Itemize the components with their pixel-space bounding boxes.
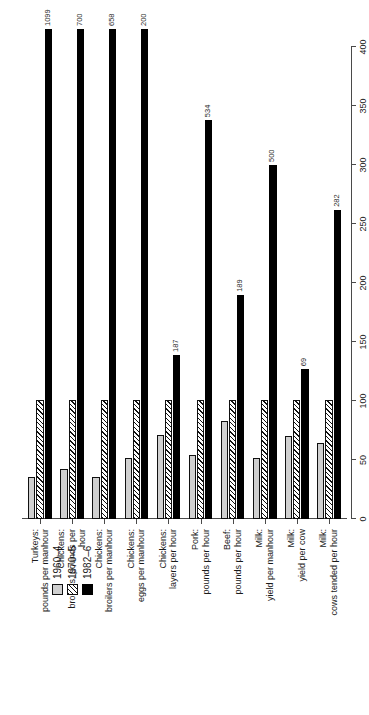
- bar-1970-5-cat5: [197, 400, 204, 519]
- axis-tick-label-100: 100: [359, 381, 368, 421]
- bar-1982-6-cat4: [173, 355, 180, 519]
- legend-swatch-hatched: [67, 584, 78, 595]
- bar-1970-5-cat2: [101, 400, 108, 519]
- bar-1982-6-cat9: [334, 210, 341, 519]
- legend-label-0: 1960–4: [52, 546, 64, 579]
- bar-1982-6-cat7: [269, 165, 276, 519]
- bar-1960-4-cat7: [253, 458, 260, 519]
- axis-tick-100: [351, 400, 356, 401]
- category-tick-5: [201, 519, 202, 524]
- axis-tick-label-150: 150: [359, 322, 368, 362]
- axis-tick-400: [351, 46, 356, 47]
- bar-value-label-1: 700: [76, 13, 84, 26]
- category-label-line: Chickens:: [158, 529, 169, 715]
- bar-value-label-6: 189: [236, 279, 244, 292]
- bar-value-label-7: 500: [268, 149, 276, 162]
- category-label-line: Milk:: [286, 529, 297, 715]
- category-label-7: Milk:yield per manhour: [254, 529, 275, 715]
- category-label-line: cows tended per hour: [329, 529, 340, 715]
- bar-1982-6-cat6: [237, 295, 244, 519]
- bar-1960-4-cat5: [189, 455, 196, 519]
- category-tick-0: [40, 519, 41, 524]
- bar-value-label-8: 69: [300, 358, 308, 366]
- bar-value-label-2: 658: [108, 13, 116, 26]
- axis-tick-label-50: 50: [359, 440, 368, 480]
- bar-1960-4-cat0: [28, 477, 35, 519]
- legend-label-1: 1970–5: [67, 546, 79, 579]
- legend-entry-1[interactable]: 1970–5: [67, 505, 79, 595]
- bar-value-label-5: 534: [204, 105, 212, 118]
- bar-value-label-4: 187: [172, 339, 180, 352]
- bar-1970-5-cat0: [36, 400, 43, 519]
- bar-1960-4-cat3: [125, 458, 132, 519]
- bar-1960-4-cat9: [317, 443, 324, 519]
- axis-tick-50: [351, 459, 356, 460]
- category-label-line: Milk:: [318, 529, 329, 715]
- category-tick-2: [104, 519, 105, 524]
- bar-1960-4-cat4: [157, 435, 164, 519]
- bar-1970-5-cat9: [325, 400, 332, 519]
- axis-tick-0: [351, 518, 356, 519]
- category-label-5: Pork:pounds per hour: [190, 529, 211, 715]
- bar-value-label-0: 1099: [44, 9, 52, 26]
- axis-tick-label-0: 0: [359, 499, 368, 539]
- category-label-line: Chickens:: [126, 529, 137, 715]
- axis-tick-300: [351, 164, 356, 165]
- chart-rotated-frame: 050100150200250300350400Index (1972–4 = …: [0, 0, 369, 715]
- category-label-9: Milk:cows tended per hour: [318, 529, 339, 715]
- category-label-line: Milk:: [254, 529, 265, 715]
- bar-1970-5-cat6: [229, 400, 236, 519]
- axis-tick-label-400: 400: [359, 27, 368, 67]
- axis-tick-label-200: 200: [359, 263, 368, 303]
- category-label-line: pounds per manhour: [40, 529, 51, 715]
- bar-1960-4-cat8: [285, 436, 292, 519]
- category-label-0: Turkeys:pounds per manhour: [30, 529, 51, 715]
- category-label-line: broilers per manhour: [104, 529, 115, 715]
- bar-1970-5-cat1: [69, 400, 76, 519]
- category-label-line: yield per manhour: [265, 529, 276, 715]
- bar-1970-5-cat7: [261, 400, 268, 519]
- category-tick-3: [136, 519, 137, 524]
- category-label-line: Pork:: [190, 529, 201, 715]
- bar-1982-6-cat0: [45, 29, 52, 519]
- category-tick-6: [233, 519, 234, 524]
- category-tick-9: [329, 519, 330, 524]
- axis-tick-250: [351, 223, 356, 224]
- bar-1960-4-cat6: [221, 421, 228, 519]
- bar-1982-6-cat1: [77, 29, 84, 519]
- axis-tick-200: [351, 282, 356, 283]
- legend-entry-0[interactable]: 1960–4: [52, 505, 64, 595]
- bar-1982-6-cat5: [205, 120, 212, 519]
- chart-figure: 050100150200250300350400Index (1972–4 = …: [0, 0, 369, 715]
- axis-tick-350: [351, 105, 356, 106]
- bar-1982-6-cat2: [109, 29, 116, 519]
- legend-label-2: 1982–6: [82, 546, 94, 579]
- category-label-line: layers per hour: [168, 529, 179, 715]
- legend-entry-2[interactable]: 1982–6: [82, 505, 94, 595]
- category-label-line: yield per cow: [297, 529, 308, 715]
- category-label-8: Milk:yield per cow: [286, 529, 307, 715]
- category-label-4: Chickens:layers per hour: [158, 529, 179, 715]
- bar-1982-6-cat8: [301, 369, 308, 519]
- legend-swatch-light-gray: [52, 584, 63, 595]
- plot-area: 050100150200250300350400Index (1972–4 = …: [0, 0, 369, 715]
- category-tick-7: [265, 519, 266, 524]
- category-label-line: Turkeys:: [30, 529, 41, 715]
- category-label-line: pounds per hour: [233, 529, 244, 715]
- category-label-3: Chickens:eggs per manhour: [126, 529, 147, 715]
- axis-tick-label-350: 350: [359, 86, 368, 126]
- legend-swatch-black: [82, 584, 93, 595]
- axis-tick-150: [351, 341, 356, 342]
- bar-value-label-9: 282: [333, 194, 341, 207]
- category-tick-4: [168, 519, 169, 524]
- bar-value-label-3: 200: [140, 13, 148, 26]
- category-tick-8: [297, 519, 298, 524]
- axis-tick-label-250: 250: [359, 204, 368, 244]
- category-label-line: eggs per manhour: [136, 529, 147, 715]
- category-label-6: Beef:pounds per hour: [222, 529, 243, 715]
- category-label-line: pounds per hour: [201, 529, 212, 715]
- category-label-line: Beef:: [222, 529, 233, 715]
- bar-1970-5-cat8: [293, 400, 300, 519]
- axis-tick-label-300: 300: [359, 145, 368, 185]
- bar-1970-5-cat3: [133, 400, 140, 519]
